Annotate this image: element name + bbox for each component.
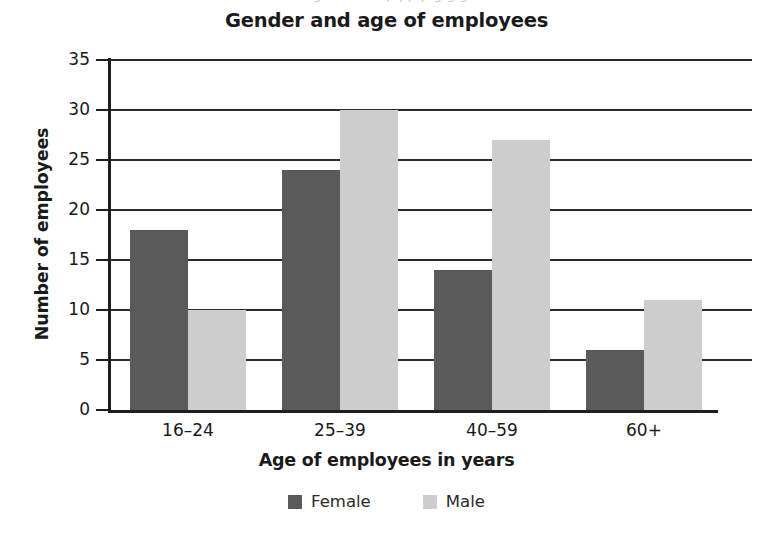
gridline [110,59,752,61]
y-axis-tick [96,109,110,111]
y-axis-tick-label: 5 [44,349,90,369]
y-axis-tick-label: 25 [44,149,90,169]
page-text-fragment: ng nnn nnn p pp p g g g [0,0,773,8]
y-axis-tick-labels: 05101520253035 [40,60,90,410]
bar-female-16-24 [130,230,188,410]
bar-female-60+ [586,350,644,410]
x-axis-line [108,410,718,413]
chart-title: Gender and age of employees [0,9,773,32]
y-axis-tick [96,309,110,311]
y-axis-tick [96,359,110,361]
gridline [110,259,752,261]
x-axis-category-label: 40–59 [414,420,570,440]
y-axis-tick [96,209,110,211]
bar-female-40-59 [434,270,492,410]
y-axis-tick [96,259,110,261]
gridline [110,109,752,111]
y-axis-tick-label: 35 [44,49,90,69]
chart-legend: FemaleMale [0,492,773,511]
x-axis-title: Age of employees in years [0,450,773,470]
legend-item-female: Female [288,492,371,511]
y-axis-tick-label: 0 [44,399,90,419]
legend-label: Female [311,492,371,511]
bar-male-25-39 [340,110,398,410]
legend-swatch-male-icon [423,495,437,509]
legend-swatch-female-icon [288,495,302,509]
bar-male-16-24 [188,310,246,410]
gridline [110,159,752,161]
x-axis-category-label: 60+ [566,420,722,440]
y-axis-tick-label: 20 [44,199,90,219]
legend-label: Male [446,492,485,511]
y-axis-tick-label: 30 [44,99,90,119]
x-axis-category-label: 25–39 [262,420,418,440]
y-axis-tick [96,59,110,61]
y-axis-tick [96,409,110,411]
bar-male-40-59 [492,140,550,410]
y-axis-tick-label: 10 [44,299,90,319]
y-axis-tick [96,159,110,161]
bar-female-25-39 [282,170,340,410]
x-axis-category-label: 16–24 [110,420,266,440]
bar-male-60+ [644,300,702,410]
y-axis-tick-label: 15 [44,249,90,269]
plot-area [110,60,752,410]
legend-item-male: Male [423,492,485,511]
gridline [110,209,752,211]
